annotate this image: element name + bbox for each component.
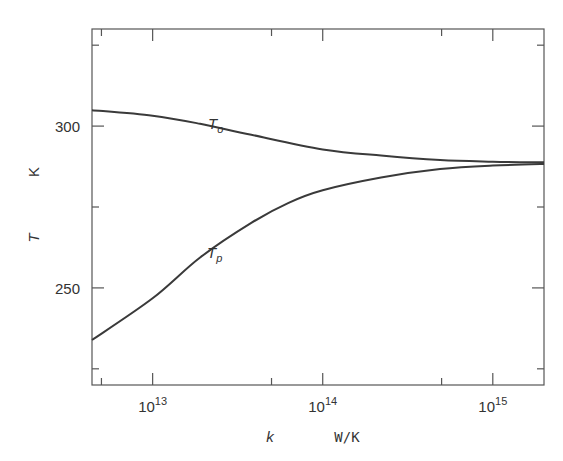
x-axis-label: k <box>266 428 275 445</box>
x-tick-label: 1015 <box>478 395 507 415</box>
curve-t-o <box>92 110 544 162</box>
y-axis-label: T <box>25 232 42 243</box>
x-tick-label: 1014 <box>308 395 337 415</box>
axis-ticks <box>92 29 544 385</box>
series-label-t-o: To <box>208 115 223 135</box>
plot-frame <box>92 29 544 385</box>
series-label-t-p: Tp <box>207 244 222 264</box>
curve-t-p <box>92 164 544 340</box>
data-curves <box>92 110 544 340</box>
x-axis-unit: W/K <box>334 429 360 445</box>
y-axis-unit: K <box>25 167 42 177</box>
tick-labels: 101310141015300250 <box>55 118 507 415</box>
y-tick-label: 250 <box>55 280 80 297</box>
chart: 101310141015300250 K T k W/K To Tp <box>0 0 563 461</box>
x-tick-label: 1013 <box>138 395 167 415</box>
y-tick-label: 300 <box>55 118 80 135</box>
